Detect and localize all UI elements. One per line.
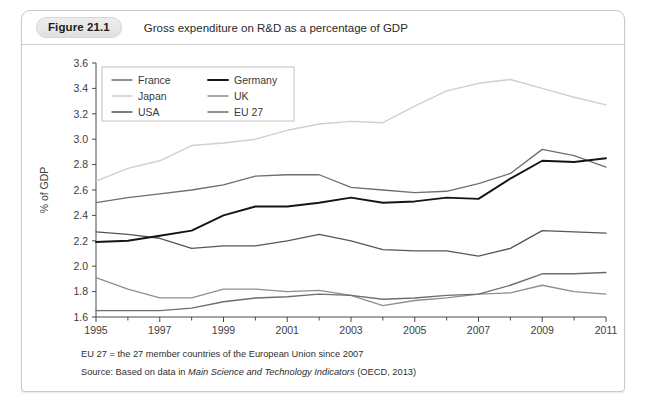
footnote-source-title: Main Science and Technology Indicators <box>188 367 355 377</box>
legend-label-uk: UK <box>234 90 249 102</box>
legend-label-usa: USA <box>138 106 160 118</box>
y-tick-label: 3.6 <box>73 57 88 69</box>
legend-label-france: France <box>138 74 171 86</box>
y-tick-label: 2.0 <box>73 260 88 272</box>
footnote-source-suffix: (OECD, 2013) <box>355 367 416 377</box>
legend-label-japan: Japan <box>138 90 167 102</box>
figure-number-badge: Figure 21.1 <box>36 17 122 38</box>
y-tick-label: 3.0 <box>73 133 88 145</box>
legend-label-eu-27: EU 27 <box>234 106 263 118</box>
series-line-germany <box>96 158 606 242</box>
x-tick-label: 2011 <box>595 324 618 336</box>
x-tick-label: 2009 <box>531 324 555 336</box>
y-tick-label: 2.2 <box>73 235 88 247</box>
figure-title: Gross expenditure on R&D as a percentage… <box>144 22 408 34</box>
figure-body: 1.61.82.02.22.42.62.83.03.23.43.61995199… <box>22 45 624 392</box>
footnote-source: Source: Based on data in Main Science an… <box>81 367 416 377</box>
figure-card: Figure 21.1 Gross expenditure on R&D as … <box>21 10 625 392</box>
y-tick-label: 2.8 <box>73 158 88 170</box>
y-tick-label: 2.4 <box>73 209 88 221</box>
series-line-uk <box>96 278 606 306</box>
y-tick-label: 3.4 <box>73 82 88 94</box>
y-tick-label: 1.8 <box>73 285 88 297</box>
x-tick-label: 2001 <box>276 324 300 336</box>
figure-header: Figure 21.1 Gross expenditure on R&D as … <box>22 11 624 45</box>
rnd-gdp-line-chart: 1.61.82.02.22.42.62.83.03.23.43.61995199… <box>22 45 626 345</box>
y-tick-label: 2.6 <box>73 184 88 196</box>
x-tick-label: 1997 <box>148 324 172 336</box>
footnote-source-prefix: Source: Based on data in <box>81 367 188 377</box>
legend-label-germany: Germany <box>234 74 278 86</box>
series-line-eu-27 <box>96 273 606 311</box>
y-tick-label: 1.6 <box>73 311 88 323</box>
series-line-france <box>96 149 606 202</box>
x-tick-label: 2003 <box>339 324 363 336</box>
x-tick-label: 1995 <box>84 324 108 336</box>
y-tick-label: 3.2 <box>73 108 88 120</box>
chart-legend: FranceJapanUSAGermanyUKEU 27 <box>102 67 294 121</box>
x-tick-label: 2007 <box>467 324 491 336</box>
x-tick-label: 2005 <box>403 324 427 336</box>
y-axis-title: % of GDP <box>38 167 50 214</box>
x-tick-label: 1999 <box>212 324 236 336</box>
footnote-eu27: EU 27 = the 27 member countries of the E… <box>81 349 363 359</box>
